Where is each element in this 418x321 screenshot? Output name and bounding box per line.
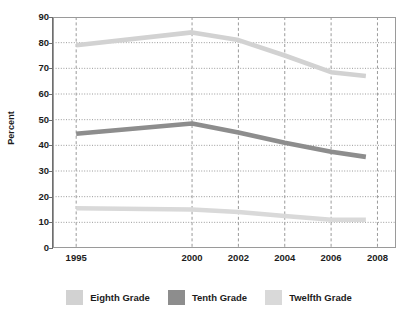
x-axis-tick-label: 2004 bbox=[263, 252, 307, 263]
x-axis-tick-label: 2008 bbox=[355, 252, 399, 263]
y-axis-title: Percent bbox=[6, 96, 16, 160]
y-axis-tick-mark bbox=[49, 248, 53, 249]
legend-item[interactable]: Eighth Grade bbox=[66, 290, 150, 305]
legend-item[interactable]: Tenth Grade bbox=[168, 290, 247, 305]
legend-swatch bbox=[168, 290, 185, 305]
data-series-line bbox=[76, 32, 366, 76]
y-axis-tick-label: 50 bbox=[21, 115, 49, 125]
legend-swatch bbox=[66, 290, 83, 305]
y-axis-spine bbox=[52, 17, 53, 248]
y-axis-tick-label: 80 bbox=[21, 38, 49, 48]
legend-label: Tenth Grade bbox=[192, 292, 247, 303]
x-axis-tick-label: 2000 bbox=[170, 252, 214, 263]
y-axis-tick-label: 40 bbox=[21, 140, 49, 150]
x-axis-tick-label: 2002 bbox=[216, 252, 260, 263]
data-series-line bbox=[76, 124, 366, 157]
plot-graphics bbox=[53, 17, 396, 248]
x-axis-tick-label: 1995 bbox=[54, 252, 98, 263]
chart-legend: Eighth GradeTenth GradeTwelfth Grade bbox=[0, 290, 418, 305]
data-series-line bbox=[76, 208, 366, 220]
y-axis-tick-label: 70 bbox=[21, 63, 49, 73]
y-axis-tick-label: 60 bbox=[21, 89, 49, 99]
legend-label: Eighth Grade bbox=[90, 292, 150, 303]
x-axis-tick-label: 2006 bbox=[309, 252, 353, 263]
y-axis-tick-label: 30 bbox=[21, 166, 49, 176]
x-axis-tick-labels: 199520002002200420062008 bbox=[0, 252, 418, 272]
line-chart: Percent 9080706050403020100 199520002002… bbox=[0, 0, 418, 321]
y-axis-tick-label: 10 bbox=[21, 217, 49, 227]
y-axis-tick-label: 20 bbox=[21, 192, 49, 202]
legend-label: Twelfth Grade bbox=[289, 292, 352, 303]
legend-swatch bbox=[265, 290, 282, 305]
legend-item[interactable]: Twelfth Grade bbox=[265, 290, 352, 305]
y-axis-tick-labels: 9080706050403020100 bbox=[16, 0, 49, 265]
y-axis-tick-label: 90 bbox=[21, 12, 49, 22]
